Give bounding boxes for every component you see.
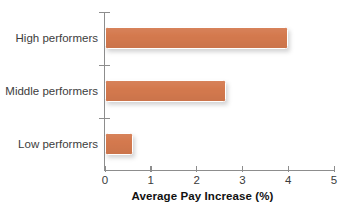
x-axis-line [104,170,335,171]
x-axis-tick-label-0: 0 [93,174,117,186]
bar-fill [106,134,132,154]
bar-chart: High performers Middle performers Low pe… [0,0,345,211]
bar-fill [106,28,287,48]
x-axis-tick-3 [242,166,243,172]
category-label-middle-performers: Middle performers [5,85,98,97]
x-axis-tick-5 [334,166,335,172]
category-label-low-performers: Low performers [18,138,98,150]
x-axis-tick-2 [196,166,197,172]
x-axis-tick-label-3: 3 [230,174,254,186]
y-axis-tick [99,65,110,66]
x-axis-tick-label-4: 4 [276,174,300,186]
x-axis-tick-label-5: 5 [322,174,345,186]
x-axis-tick-label-2: 2 [185,174,209,186]
x-axis-tick-4 [288,166,289,172]
y-axis-top-cap [99,12,110,13]
bar-fill [106,81,225,101]
y-axis-tick [99,118,110,119]
bar-low-performers [105,133,133,155]
x-axis-tick-label-1: 1 [139,174,163,186]
x-axis-tick-1 [150,166,151,172]
category-label-high-performers: High performers [16,32,98,44]
x-axis-title: Average Pay Increase (%) [0,190,345,202]
bar-middle-performers [105,80,226,102]
x-axis-tick-0 [105,166,106,172]
bar-high-performers [105,27,288,49]
